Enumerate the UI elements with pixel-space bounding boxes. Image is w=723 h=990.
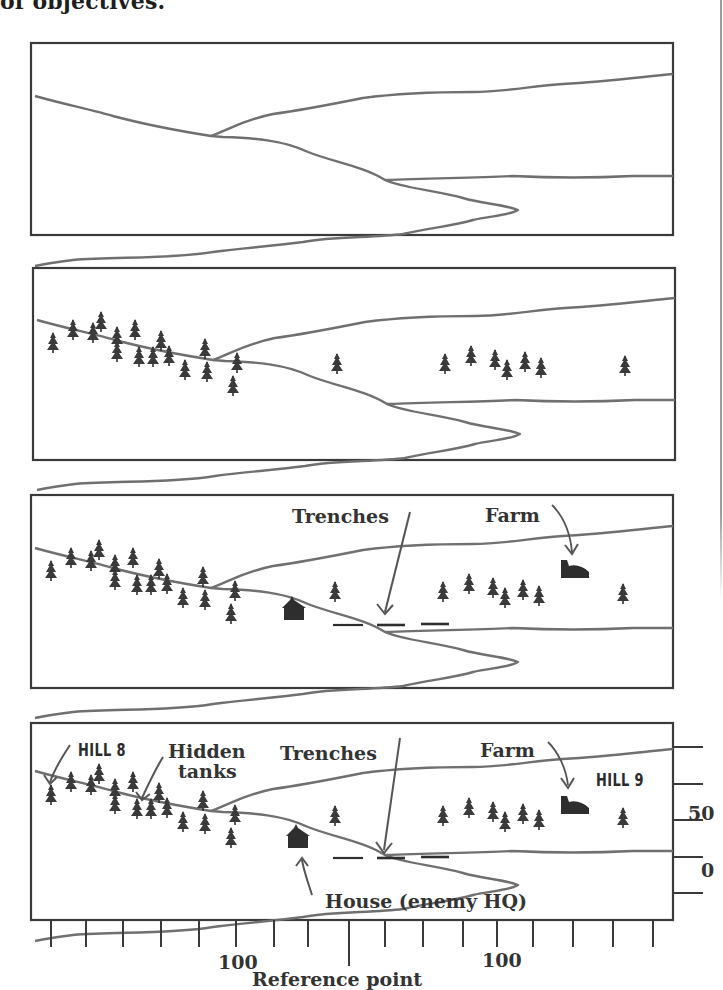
terrain-lines	[35, 74, 673, 266]
hidden-tanks-label-line1: Hidden	[168, 742, 246, 761]
tree-icons	[47, 311, 631, 396]
panel-frame	[31, 43, 673, 235]
trenches-arrow-icon	[385, 512, 410, 612]
bottom-scale	[51, 920, 653, 966]
house-enemy-hq-label: House (enemy HQ)	[325, 892, 527, 911]
farm-arrow-icon	[548, 742, 568, 785]
farm-icon	[561, 560, 589, 578]
trenches-arrow-icon	[384, 738, 400, 850]
trenches-icon	[333, 624, 449, 625]
bottom-scale-label-right-100: 100	[482, 949, 522, 971]
farm-arrow-icon	[552, 505, 572, 552]
farm-label: Farm	[485, 506, 540, 525]
hill9-label: HILL 9	[596, 769, 644, 790]
trenches-icon	[333, 857, 449, 858]
terrain-lines	[35, 749, 673, 941]
range-card-diagram	[0, 0, 723, 990]
trenches-label: Trenches	[280, 744, 377, 763]
trenches-label: Trenches	[292, 507, 389, 526]
hill8-label: HILL 8	[78, 739, 126, 760]
house-icon	[286, 824, 310, 848]
reference-point-label: Reference point	[252, 968, 422, 990]
right-scale-label-0: 0	[701, 859, 714, 881]
panel-1	[31, 43, 673, 266]
tree-icons	[45, 539, 629, 624]
farm-label: Farm	[480, 741, 535, 760]
panel-2	[33, 268, 675, 490]
panel-3	[31, 495, 673, 718]
farm-icon	[561, 796, 589, 814]
panel-frame	[33, 268, 675, 460]
hidden-tanks-label-line2: tanks	[178, 762, 237, 781]
right-scale-label-50: 50	[688, 802, 714, 824]
